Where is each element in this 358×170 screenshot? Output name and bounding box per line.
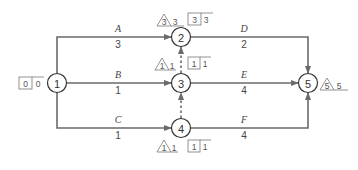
svg-text:1: 1 <box>192 142 197 152</box>
svg-text:1: 1 <box>172 143 177 153</box>
svg-text:1: 1 <box>170 61 175 71</box>
activity-A-name: A <box>114 23 122 34</box>
svg-text:1: 1 <box>162 143 167 153</box>
node-2-time-box: 3 3 <box>188 13 213 25</box>
node-2-triangle-label: 3 3 <box>157 14 184 27</box>
svg-text:1: 1 <box>203 142 208 152</box>
svg-text:1: 1 <box>203 59 208 69</box>
node-4-time-box: 1 1 <box>188 140 211 152</box>
node-1: 1 <box>48 74 67 93</box>
node-1-time-box: 0 0 <box>19 77 44 89</box>
svg-text:2: 2 <box>178 32 184 44</box>
activity-D-duration: 2 <box>241 39 247 50</box>
activity-F-name: F <box>240 114 248 125</box>
node-4-triangle-label: 1 1 <box>157 140 178 153</box>
svg-text:1: 1 <box>160 61 165 71</box>
node-4: 4 <box>172 119 191 138</box>
svg-text:1: 1 <box>54 78 60 90</box>
activity-C-name: C <box>115 114 122 125</box>
network-diagram: A 3 B 1 C 1 D 2 E 4 F 4 1 2 3 4 5 0 0 3 … <box>0 0 358 170</box>
svg-text:5: 5 <box>337 81 342 91</box>
svg-text:3: 3 <box>173 17 178 27</box>
activity-E-duration: 4 <box>241 85 247 96</box>
activity-D-name: D <box>239 23 248 34</box>
arrow-F <box>191 93 308 128</box>
svg-text:0: 0 <box>36 79 41 89</box>
svg-text:4: 4 <box>178 123 184 135</box>
arrow-D <box>191 37 308 73</box>
svg-text:5: 5 <box>305 78 311 90</box>
node-3-triangle-label: 1 1 <box>155 58 176 71</box>
svg-text:3: 3 <box>162 17 167 27</box>
activity-C-duration: 1 <box>115 130 121 141</box>
activity-B-name: B <box>115 69 121 80</box>
node-5: 5 <box>299 74 318 93</box>
node-5-triangle-label: 5 5 <box>320 78 348 91</box>
node-3-time-box: 1 1 <box>188 57 211 69</box>
svg-text:3: 3 <box>178 78 184 90</box>
node-2: 2 <box>172 28 191 47</box>
svg-text:5: 5 <box>325 81 330 91</box>
svg-text:3: 3 <box>204 15 209 25</box>
activity-B-duration: 1 <box>115 85 121 96</box>
svg-text:0: 0 <box>23 79 28 89</box>
node-3: 3 <box>172 74 191 93</box>
activity-F-duration: 4 <box>241 130 247 141</box>
activity-A-duration: 3 <box>115 39 121 50</box>
svg-text:1: 1 <box>192 59 197 69</box>
svg-text:3: 3 <box>192 15 197 25</box>
activity-E-name: E <box>240 69 247 80</box>
